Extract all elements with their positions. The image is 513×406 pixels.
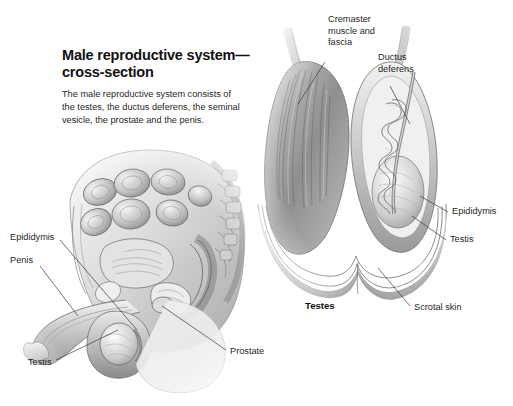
label-cremaster-muscle-and-fascia: Cremaster muscle and fascia: [328, 14, 375, 49]
pelvis-cross-section: [23, 150, 244, 393]
leader-penis: [40, 266, 78, 316]
page-title: Male reproductive system—cross-section: [62, 47, 262, 81]
label-testis-left: Testis: [28, 357, 51, 369]
illustration-page: Male reproductive system—cross-section T…: [0, 0, 513, 406]
figure-caption-testes: Testes: [305, 300, 335, 311]
label-testis-right: Testis: [450, 234, 473, 246]
label-scrotal-skin: Scrotal skin: [414, 302, 462, 314]
testes-cross-section: [258, 26, 446, 300]
label-prostate: Prostate: [230, 346, 264, 358]
label-penis: Penis: [10, 255, 33, 267]
label-epididymis-right: Epididymis: [452, 206, 496, 218]
label-epididymis-left: Epididymis: [10, 232, 54, 244]
intro-paragraph: The male reproductive system consists of…: [62, 88, 242, 128]
label-ductus-deferens: Ductus deferens: [378, 52, 414, 75]
